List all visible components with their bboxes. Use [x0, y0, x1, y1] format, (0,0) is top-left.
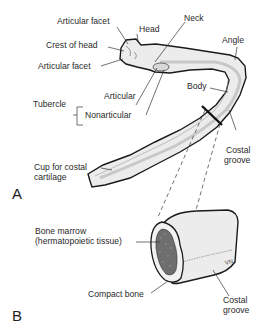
label-body: Body	[187, 82, 207, 92]
label-bone-marrow-line2: (hermatopoietic tissue)	[35, 237, 122, 247]
label-costal-groove-b-line2: groove	[223, 306, 249, 316]
label-tubercle-articular: Articular	[104, 92, 136, 102]
label-crest-of-head: Crest of head	[46, 41, 98, 51]
label-neck: Neck	[184, 14, 204, 24]
panel-label-a: A	[12, 185, 22, 202]
label-tubercle: Tubercle	[33, 100, 66, 110]
tubercle-shape	[153, 63, 169, 71]
label-angle: Angle	[222, 36, 244, 46]
label-tubercle-nonarticular: Nonarticular	[85, 111, 131, 121]
label-articular-facet-top: Articular facet	[57, 17, 110, 27]
cross-section-illustration	[151, 210, 238, 284]
panel-label-b: B	[12, 307, 22, 324]
label-compact-bone: Compact bone	[88, 290, 144, 300]
label-cup-line2: cartilage	[34, 173, 66, 183]
label-costal-groove-a-line2: groove	[224, 156, 250, 166]
label-articular-facet-bottom: Articular facet	[38, 62, 91, 72]
label-head: Head	[139, 25, 160, 35]
